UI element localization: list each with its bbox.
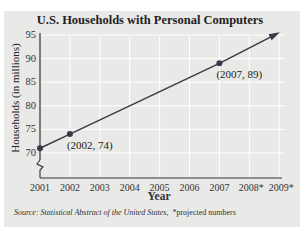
trend-line (40, 34, 277, 149)
data-point (67, 131, 73, 137)
projection-note: *projected numbers (172, 208, 235, 217)
y-tick-label: 70 (26, 147, 37, 158)
y-tick-labels: 707580859095 (26, 29, 37, 158)
gridlines (40, 35, 285, 178)
data-series (37, 32, 280, 151)
y-tick-label: 95 (26, 29, 37, 40)
data-point (216, 60, 222, 66)
point-label: (2007, 89) (216, 68, 262, 81)
source-note: Source: Statistical Abstract of the Unit… (14, 208, 236, 217)
y-tick-label: 80 (26, 100, 37, 111)
y-tick-label: 90 (26, 53, 37, 64)
y-axis-label: Households (in millions) (9, 43, 21, 153)
source-text: Statistical Abstract of the United State… (41, 208, 169, 217)
point-label: (2002, 74) (67, 139, 113, 152)
y-tick-label: 75 (26, 123, 37, 134)
y-tick-label: 85 (26, 76, 37, 87)
point-annotations: (2002, 74)(2007, 89) (67, 68, 263, 152)
data-point (37, 145, 43, 151)
x-axis-label: Year (0, 190, 300, 202)
axis-break-icon (37, 160, 43, 178)
arrowhead-icon (268, 32, 279, 40)
source-label: Source: (14, 208, 39, 217)
